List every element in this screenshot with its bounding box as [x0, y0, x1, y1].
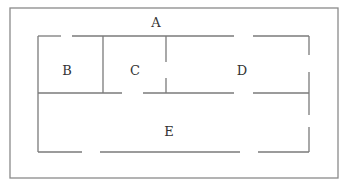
- region-label-d: D: [237, 63, 247, 78]
- region-label-b: B: [62, 63, 72, 78]
- region-label-e: E: [164, 124, 174, 139]
- region-label-a: A: [150, 15, 161, 30]
- floor-plan-diagram: ABCDE: [0, 0, 347, 185]
- labels-group: ABCDE: [62, 15, 247, 139]
- region-label-c: C: [130, 63, 140, 78]
